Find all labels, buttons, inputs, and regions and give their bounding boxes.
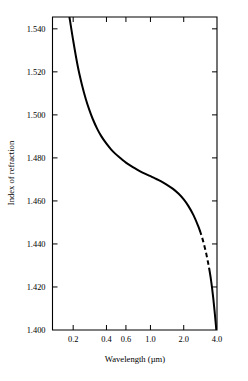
x-axis-tick-labels: 0.20.40.61.02.04.0 bbox=[68, 335, 222, 344]
curve-segment bbox=[69, 17, 199, 231]
y-tick-label: 1.540 bbox=[27, 25, 46, 34]
x-tick-label: 2.0 bbox=[178, 335, 188, 344]
y-tick-label: 1.500 bbox=[27, 111, 46, 120]
dispersion-chart: 1.4001.4201.4401.4601.4801.5001.5201.540… bbox=[0, 0, 248, 381]
x-tick-label: 4.0 bbox=[212, 335, 222, 344]
x-tick-label: 0.6 bbox=[121, 335, 131, 344]
x-tick-label: 1.0 bbox=[145, 335, 155, 344]
x-tick-label: 0.2 bbox=[68, 335, 78, 344]
y-tick-label: 1.480 bbox=[27, 154, 46, 163]
x-axis-title: Wavelength (µm) bbox=[105, 354, 165, 364]
curve-segment bbox=[200, 231, 209, 269]
figure: 1.4001.4201.4401.4601.4801.5001.5201.540… bbox=[0, 0, 248, 381]
y-tick-label: 1.400 bbox=[27, 326, 46, 335]
y-axis-tick-labels: 1.4001.4201.4401.4601.4801.5001.5201.540 bbox=[27, 25, 46, 335]
curve-segment bbox=[209, 268, 217, 338]
data-curves bbox=[69, 17, 217, 339]
y-axis-title: Index of refraction bbox=[6, 140, 16, 205]
y-tick-label: 1.420 bbox=[27, 283, 46, 292]
x-tick-label: 0.4 bbox=[101, 335, 112, 344]
y-tick-label: 1.520 bbox=[27, 68, 46, 77]
y-tick-label: 1.440 bbox=[27, 240, 46, 249]
y-tick-label: 1.460 bbox=[27, 197, 46, 206]
